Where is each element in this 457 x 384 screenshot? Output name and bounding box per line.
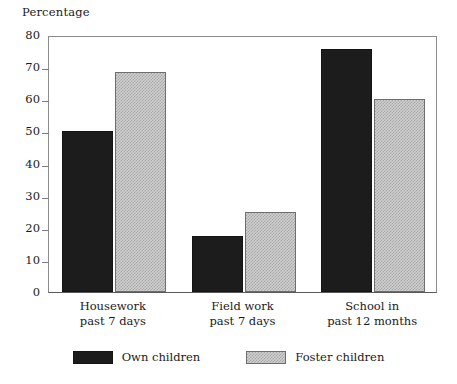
legend-swatch-foster <box>246 351 286 364</box>
y-axis-tick <box>42 262 49 263</box>
category-label-line: Housework <box>48 299 178 314</box>
y-axis-tick <box>42 101 49 102</box>
y-axis-tick <box>42 166 49 167</box>
bar-group <box>192 37 296 292</box>
chart-legend: Own childrenFoster children <box>0 350 457 364</box>
bar-own-children <box>192 236 243 292</box>
category-label-line: Field work <box>178 299 308 314</box>
bar-own-children <box>321 49 372 292</box>
category-label-line: past 12 months <box>307 314 437 329</box>
y-axis-tick-label: 0 <box>33 287 40 299</box>
legend-item: Own children <box>73 350 201 364</box>
bar-group <box>321 37 425 292</box>
y-axis-tick-label: 20 <box>25 223 40 235</box>
plot-area <box>48 36 437 293</box>
category-label-line: past 7 days <box>48 314 178 329</box>
y-axis-tick-label: 30 <box>25 191 40 203</box>
y-axis-title: Percentage <box>22 5 90 19</box>
chart-figure: Percentage 01020304050607080 Houseworkpa… <box>0 0 457 384</box>
x-axis-category-label: Field workpast 7 days <box>178 299 308 329</box>
y-axis-tick-label: 70 <box>25 62 40 74</box>
x-axis-category-labels: Houseworkpast 7 daysField workpast 7 day… <box>48 299 437 335</box>
y-axis-tick <box>42 198 49 199</box>
x-axis-category-label: Houseworkpast 7 days <box>48 299 178 329</box>
bar-foster-children <box>115 72 166 292</box>
category-label-line: School in <box>307 299 437 314</box>
legend-item: Foster children <box>246 350 384 364</box>
bar-foster-children <box>245 212 296 292</box>
x-axis-category-label: School inpast 12 months <box>307 299 437 329</box>
y-axis-tick <box>42 230 49 231</box>
y-axis-tick-label: 50 <box>25 126 40 138</box>
y-axis-tick-label: 60 <box>25 94 40 106</box>
y-axis-tick-labels: 01020304050607080 <box>0 36 40 293</box>
y-axis-tick <box>42 69 49 70</box>
y-axis-tick <box>42 133 49 134</box>
y-axis-tick-label: 80 <box>25 30 40 42</box>
bar-group <box>62 37 166 292</box>
legend-label: Foster children <box>295 350 384 364</box>
y-axis-tick-label: 40 <box>25 159 40 171</box>
legend-label: Own children <box>122 350 201 364</box>
y-axis-tick-label: 10 <box>25 255 40 267</box>
bar-foster-children <box>374 99 425 292</box>
category-label-line: past 7 days <box>178 314 308 329</box>
legend-swatch-own <box>73 351 113 364</box>
bar-own-children <box>62 131 113 292</box>
